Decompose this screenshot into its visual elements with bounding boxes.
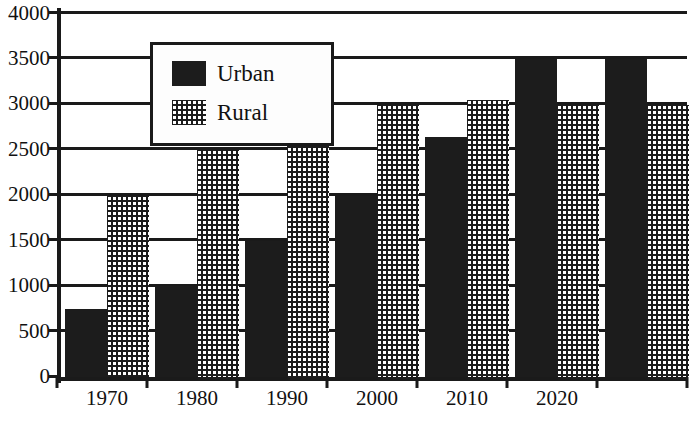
bar-urban-2010[interactable]	[425, 137, 467, 378]
y-tick-label: 4000	[8, 3, 50, 24]
x-tick-label-1970: 1970	[86, 388, 128, 409]
y-tick-label: 2000	[8, 184, 50, 205]
bar-rural-partial[interactable]	[647, 105, 689, 377]
x-tick-mark	[686, 377, 689, 388]
y-tick-label: 500	[19, 321, 51, 342]
x-tick-mark	[56, 377, 59, 388]
x-tick-label-1990: 1990	[266, 388, 308, 409]
bar-rural-1990[interactable]	[287, 127, 329, 377]
x-tick-mark	[416, 377, 419, 388]
bar-urban-1980[interactable]	[155, 286, 197, 377]
legend-item-rural[interactable]: Rural	[172, 97, 268, 127]
x-tick-mark	[326, 377, 329, 388]
bar-rural-2000[interactable]	[377, 105, 419, 377]
y-tick-label: 3500	[8, 48, 50, 69]
legend: Urban Rural	[150, 42, 334, 146]
x-tick-mark	[506, 377, 509, 388]
x-tick-label-2000: 2000	[356, 388, 398, 409]
y-tick-label: 3000	[8, 93, 50, 114]
x-tick-label-2010: 2010	[446, 388, 488, 409]
legend-swatch-urban-icon	[172, 61, 206, 86]
bar-rural-1970[interactable]	[107, 196, 149, 378]
x-axis-line	[57, 377, 687, 381]
y-tick-label: 2500	[8, 139, 50, 160]
bar-urban-1970[interactable]	[65, 309, 107, 377]
x-tick-mark	[596, 377, 599, 388]
y-tick-label: 1500	[8, 230, 50, 251]
legend-swatch-rural-icon	[172, 100, 206, 125]
x-tick-mark	[236, 377, 239, 388]
bar-rural-1980[interactable]	[197, 150, 239, 377]
bar-urban-2000[interactable]	[335, 196, 377, 378]
bar-urban-1990[interactable]	[245, 241, 287, 377]
bar-urban-partial[interactable]	[605, 59, 647, 377]
bar-rural-2020[interactable]	[557, 105, 599, 377]
legend-item-urban[interactable]: Urban	[172, 58, 274, 88]
x-tick-label-2020: 2020	[536, 388, 578, 409]
legend-label-rural: Rural	[217, 100, 268, 125]
legend-label-urban: Urban	[217, 61, 274, 86]
x-tick-label-1980: 1980	[176, 388, 218, 409]
x-tick-mark	[146, 377, 149, 388]
bar-urban-2020[interactable]	[515, 59, 557, 377]
bar-rural-2010[interactable]	[467, 100, 509, 377]
y-axis-labels: 4000 3500 3000 2500 2000 1500 1000 500 0	[0, 0, 50, 421]
y-tick-label: 1000	[8, 275, 50, 296]
plot-area: Urban Rural	[57, 14, 687, 377]
